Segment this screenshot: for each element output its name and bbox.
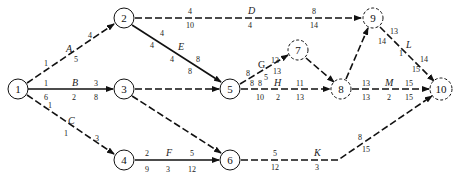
h-ef: 11 xyxy=(296,79,304,88)
g-es: 8 xyxy=(246,69,250,78)
m-ef: 15 xyxy=(405,79,413,88)
network-diagram: 1 2 3 4 5 6 7 8 9 10 1 A 4 5 1 B 3 6 2 8… xyxy=(0,0,455,178)
m-es: 13 xyxy=(362,79,370,88)
h-lf: 13 xyxy=(296,93,304,102)
m-lf: 15 xyxy=(405,93,413,102)
g-ef: 13 xyxy=(271,56,279,65)
c-ef: 3 xyxy=(95,134,99,143)
e-d: 4 xyxy=(170,55,174,64)
k-d: 3 xyxy=(315,163,319,172)
a-ef: 4 xyxy=(88,31,92,40)
g-ls: 8 xyxy=(250,79,254,88)
svg-text:9: 9 xyxy=(370,12,376,24)
h-d: 2 xyxy=(276,93,280,102)
f-d: 3 xyxy=(166,165,170,174)
edge-8-9 xyxy=(346,28,368,79)
c-d: 1 xyxy=(64,129,68,138)
k-ef: 8 xyxy=(358,133,362,142)
activity-g: G xyxy=(258,59,265,70)
c-es: 1 xyxy=(48,101,52,110)
node-10: 10 xyxy=(430,78,452,100)
svg-text:1: 1 xyxy=(15,83,21,95)
h-ls: 10 xyxy=(256,93,264,102)
edge-e xyxy=(132,25,221,82)
svg-text:8: 8 xyxy=(338,83,344,95)
edge-3-6 xyxy=(132,96,221,153)
e-ls: 4 xyxy=(150,41,154,50)
activity-l: L xyxy=(405,39,412,50)
a-d: 5 xyxy=(74,55,78,64)
node-9: 9 xyxy=(363,8,383,28)
f-es: 2 xyxy=(145,149,149,158)
k-ls: 12 xyxy=(271,163,279,172)
f-lf: 12 xyxy=(188,165,196,174)
d-ef: 8 xyxy=(312,7,316,16)
e-es: 4 xyxy=(160,29,164,38)
activity-a: A xyxy=(65,43,73,54)
node-3: 3 xyxy=(114,79,134,99)
d-es: 4 xyxy=(188,7,192,16)
a-es: 1 xyxy=(44,59,48,68)
m-d: 2 xyxy=(387,93,391,102)
edge-l xyxy=(380,27,434,81)
node-1: 1 xyxy=(8,79,28,99)
svg-text:2: 2 xyxy=(121,12,127,24)
b-ef: 3 xyxy=(94,79,98,88)
e-lf: 8 xyxy=(188,67,192,76)
b-lf: 8 xyxy=(94,93,98,102)
activity-c: C xyxy=(68,115,75,126)
f-ef: 5 xyxy=(190,149,194,158)
k-lf: 15 xyxy=(362,145,370,154)
activity-d: D xyxy=(247,5,256,16)
node-8: 8 xyxy=(331,79,351,99)
b-es: 1 xyxy=(44,79,48,88)
activity-b: B xyxy=(72,77,78,88)
edge-7-8 xyxy=(306,58,334,82)
l-lf: 15 xyxy=(412,65,420,74)
svg-text:6: 6 xyxy=(227,154,233,166)
l-es: 13 xyxy=(390,27,398,36)
e-ef: 8 xyxy=(196,55,200,64)
svg-text:4: 4 xyxy=(121,154,127,166)
g-d: 5 xyxy=(264,73,268,82)
activity-f: F xyxy=(165,147,173,158)
svg-text:3: 3 xyxy=(121,83,127,95)
k-es: 5 xyxy=(273,149,277,158)
node-7: 7 xyxy=(288,40,308,60)
h-es: 8 xyxy=(258,79,262,88)
activity-h: H xyxy=(273,77,282,88)
edge-k xyxy=(241,96,432,160)
b-d: 2 xyxy=(72,93,76,102)
l-d: 1 xyxy=(399,49,403,58)
d-d: 4 xyxy=(248,21,252,30)
node-5: 5 xyxy=(220,79,240,99)
f-ls: 9 xyxy=(145,165,149,174)
svg-text:7: 7 xyxy=(295,44,301,56)
network-svg: 1 2 3 4 5 6 7 8 9 10 1 A 4 5 1 B 3 6 2 8… xyxy=(0,0,455,178)
svg-text:10: 10 xyxy=(436,83,448,95)
svg-text:5: 5 xyxy=(227,83,233,95)
node-6: 6 xyxy=(220,150,240,170)
activity-m: M xyxy=(384,77,394,88)
d-ls: 10 xyxy=(186,21,194,30)
m-ls: 13 xyxy=(362,93,370,102)
g-lf: 13 xyxy=(273,67,281,76)
activity-k: K xyxy=(313,147,322,158)
node-2: 2 xyxy=(114,8,134,28)
activity-e: E xyxy=(177,41,184,52)
l-ef: 14 xyxy=(420,55,428,64)
node-4: 4 xyxy=(114,150,134,170)
d-lf: 14 xyxy=(310,21,318,30)
l-ls: 14 xyxy=(378,37,386,46)
